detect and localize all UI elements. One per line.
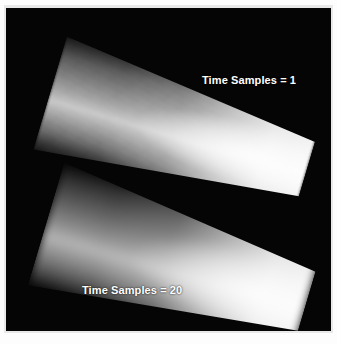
label-time-samples-1: Time Samples = 1 bbox=[202, 74, 296, 86]
label-time-samples-20: Time Samples = 20 bbox=[82, 284, 182, 296]
figure-root: Time Samples = 1 Time Samples = 20 bbox=[0, 0, 337, 344]
render-panel: Time Samples = 1 Time Samples = 20 bbox=[6, 8, 331, 331]
